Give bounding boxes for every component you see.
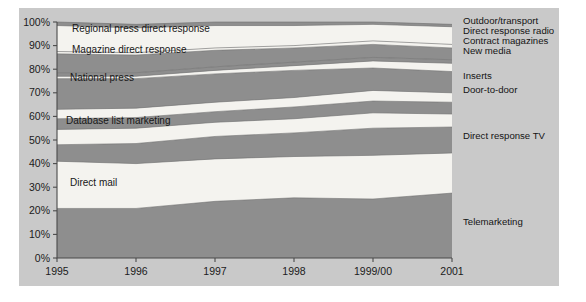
y-tick-label: 90% <box>29 39 50 51</box>
inline-series-label: Database list marketing <box>66 115 171 126</box>
x-tick-label: 1996 <box>124 265 148 277</box>
legend-label: Inserts <box>463 70 492 81</box>
x-axis-tick-labels: 19951996199719981999/002001 <box>45 265 464 277</box>
y-tick-label: 60% <box>29 110 50 122</box>
inline-series-label: National press <box>70 72 134 83</box>
y-tick-label: 10% <box>29 228 50 240</box>
y-tick-label: 80% <box>29 63 50 75</box>
x-tick-label: 1995 <box>45 265 69 277</box>
chart-legend: Outdoor/transportDirect response radioCo… <box>463 15 554 227</box>
inline-series-label: Regional press direct response <box>72 23 210 34</box>
stacked-area-chart: 0%10%20%30%40%50%60%70%80%90%100% 199519… <box>0 0 586 302</box>
y-tick-label: 50% <box>29 134 50 146</box>
legend-label: Telemarketing <box>463 216 523 227</box>
y-tick-label: 40% <box>29 157 50 169</box>
y-tick-label: 100% <box>23 16 50 28</box>
legend-label: New media <box>463 45 512 56</box>
y-tick-label: 20% <box>29 204 50 216</box>
legend-label: Door-to-door <box>463 84 518 95</box>
x-tick-label: 1999/00 <box>354 265 392 277</box>
y-tick-label: 70% <box>29 86 50 98</box>
y-tick-label: 0% <box>35 252 50 264</box>
y-tick-label: 30% <box>29 181 50 193</box>
x-tick-label: 1997 <box>203 265 227 277</box>
x-tick-label: 2001 <box>440 265 464 277</box>
inline-series-label: Direct mail <box>70 177 117 188</box>
x-tick-label: 1998 <box>282 265 306 277</box>
chart-area-bands <box>57 22 452 258</box>
inline-series-label: Magazine direct response <box>72 44 187 55</box>
y-axis-tick-labels: 0%10%20%30%40%50%60%70%80%90%100% <box>23 16 50 264</box>
chart-plot-container: 0%10%20%30%40%50%60%70%80%90%100% 199519… <box>0 0 586 302</box>
legend-label: Direct response TV <box>463 130 546 141</box>
chart-page: 0%10%20%30%40%50%60%70%80%90%100% 199519… <box>0 0 586 302</box>
